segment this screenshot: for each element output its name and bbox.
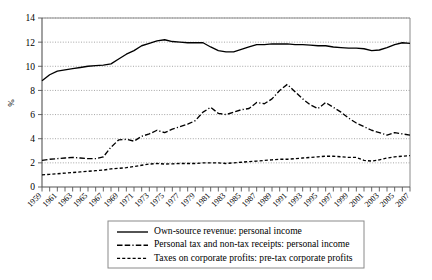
x-tick-label: 1959 — [25, 191, 43, 209]
series-line-0 — [42, 40, 410, 81]
x-tick-label: 1971 — [117, 191, 135, 209]
x-tick-label: 1973 — [133, 191, 151, 209]
y-tick-label: 10 — [26, 62, 36, 72]
series-line-2 — [42, 156, 410, 175]
legend-label: Personal tax and non-tax receipts: perso… — [154, 238, 350, 249]
x-tick-label: 1989 — [255, 191, 273, 209]
y-tick-label: 6 — [30, 110, 35, 120]
x-tick-label: 1983 — [209, 191, 227, 209]
x-tick-label: 1999 — [332, 191, 350, 209]
x-tick-label: 1985 — [225, 191, 243, 209]
x-tick-label: 1977 — [163, 191, 181, 209]
x-tick-label: 1981 — [194, 191, 212, 209]
x-tick-label: 2001 — [347, 191, 365, 209]
x-tick-label: 2007 — [393, 191, 411, 209]
x-tick-label: 1967 — [87, 191, 105, 209]
y-tick-label: 12 — [26, 38, 36, 48]
x-tick-label: 1987 — [240, 191, 258, 209]
x-tick-label: 1961 — [41, 191, 59, 209]
y-tick-label: 2 — [30, 158, 35, 168]
x-tick-label: 1969 — [102, 191, 120, 209]
x-axis: 1959196119631965196719691971197319751977… — [25, 187, 411, 209]
plot-frame — [42, 18, 410, 187]
y-tick-label: 0 — [30, 182, 35, 192]
x-tick-label: 2005 — [378, 191, 396, 209]
x-tick-label: 1963 — [56, 191, 74, 209]
chart-figure: 02468101214 1959196119631965196719691971… — [0, 0, 432, 280]
x-tick-label: 1997 — [317, 191, 335, 209]
x-tick-label: 1965 — [71, 191, 89, 209]
y-tick-label: 4 — [30, 134, 35, 144]
x-tick-label: 1991 — [271, 191, 289, 209]
y-axis-title: % — [6, 99, 16, 107]
y-axis: 02468101214 — [26, 13, 43, 192]
x-tick-label: 1995 — [301, 191, 319, 209]
chart-legend: Own-source revenue: personal incomePerso… — [108, 221, 364, 268]
x-tick-label: 1975 — [148, 191, 166, 209]
data-series — [42, 40, 410, 175]
series-line-1 — [42, 84, 410, 160]
line-chart-canvas: 02468101214 1959196119631965196719691971… — [0, 0, 432, 280]
x-tick-label: 1993 — [286, 191, 304, 209]
x-tick-label: 1979 — [179, 191, 197, 209]
y-tick-label: 8 — [30, 86, 35, 96]
y-axis-label: % — [6, 99, 16, 107]
y-tick-label: 14 — [26, 13, 36, 23]
gridlines — [42, 18, 410, 163]
legend-label: Own-source revenue: personal income — [154, 225, 302, 236]
legend-label: Taxes on corporate profits: pre-tax corp… — [154, 252, 353, 263]
x-tick-label: 2003 — [363, 191, 381, 209]
